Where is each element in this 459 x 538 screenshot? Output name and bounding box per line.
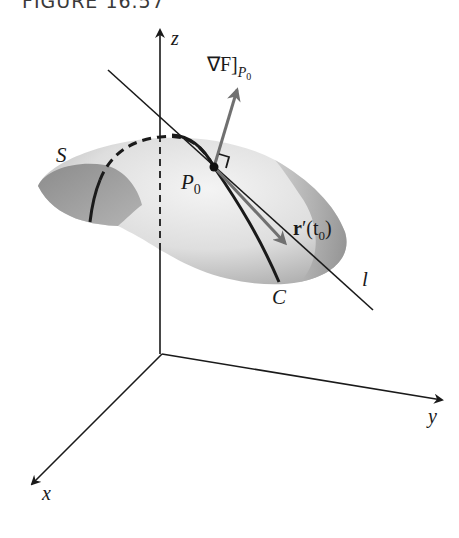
y-axis <box>162 354 442 400</box>
line-label: l <box>362 267 368 291</box>
diagram-canvas: z y x S P0 C l ∇F]P0 r′(t0) <box>0 0 459 538</box>
surface-s <box>38 138 347 285</box>
gradient-label: ∇F]P0 <box>206 53 251 82</box>
x-axis-label: x <box>41 482 51 504</box>
curve-label: C <box>272 285 287 309</box>
x-axis <box>32 354 162 484</box>
y-axis-label: y <box>426 405 437 428</box>
point-p0 <box>210 163 219 172</box>
z-axis-label: z <box>170 27 179 49</box>
surface-label: S <box>56 143 67 167</box>
